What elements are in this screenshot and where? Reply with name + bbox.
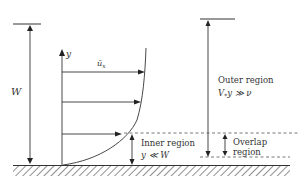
y-axis [59,49,65,165]
overlap-region-label-line1: Overlap [233,137,268,147]
velocity-label: ūx [97,59,106,69]
arrow-down-icon [130,159,135,165]
arrow-right-icon [134,100,141,105]
arrow-up-icon [206,20,211,26]
y-axis-label: y [65,49,72,59]
arrow-up-icon [27,25,33,31]
overlap-region-dimension [223,134,228,156]
boundary-layer-diagram: W y ūx Inner region y ≪ W Outer region V… [0,0,306,186]
velocity-arrows [62,70,145,137]
arrow-up-icon [59,49,65,56]
arrow-down-icon [223,151,228,156]
inner-region-dimension [130,134,135,165]
arrow-right-icon [115,132,122,137]
overlap-region-label-line2: region [233,147,261,157]
inner-region-condition: y ≪ W [140,150,170,160]
outer-region-label: Outer region [218,75,274,85]
inner-region-label: Inner region [141,138,195,148]
arrow-up-icon [223,134,228,139]
arrow-up-icon [130,134,135,140]
arrow-right-icon [138,70,145,75]
arrow-down-icon [27,158,33,164]
arrow-down-icon [206,151,211,157]
height-label: W [11,86,22,97]
wall [13,166,290,177]
outer-region-condition: V*y ≫ ν [218,88,252,99]
